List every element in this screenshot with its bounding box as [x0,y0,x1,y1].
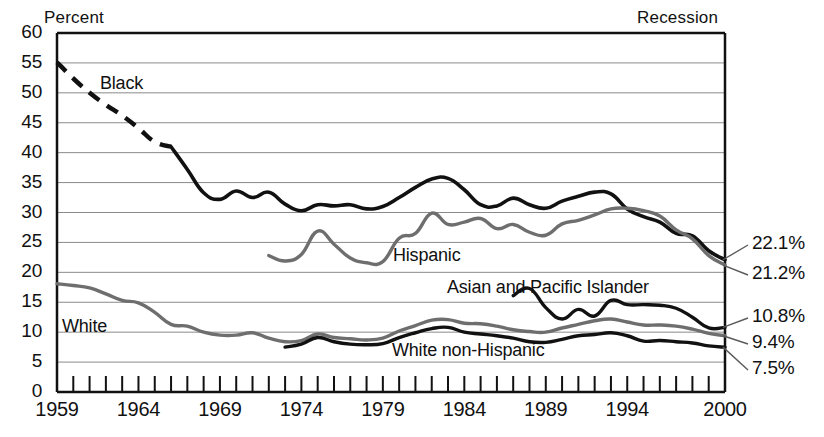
series-label-white-non-hispanic: White non-Hispanic [392,340,544,361]
y-tick-label: 35 [8,171,42,193]
series-label-black: Black [100,73,143,94]
end-label-asian-and-pacific-islander: 10.8% [752,305,805,327]
y-tick-label: 15 [8,290,42,312]
end-label-hispanic: 21.2% [752,262,805,284]
y-tick-label: 5 [8,350,42,372]
y-tick-label: 45 [8,111,42,133]
y-tick-label: 40 [8,141,42,163]
x-tick-label: 2000 [685,398,765,421]
end-label-black: 22.1% [752,232,805,254]
x-tick-label: 1959 [17,398,97,421]
end-label-white-non-hispanic: 7.5% [752,357,795,379]
y-tick-label: 25 [8,230,42,252]
series-label-asian-and-pacific-islander: Asian and Pacific Islander [447,277,649,298]
series-label-hispanic: Hispanic [393,245,460,266]
end-label-leader-lines [723,245,748,370]
end-label-white: 9.4% [752,331,795,353]
y-tick-label: 60 [8,21,42,43]
x-tick-label: 1969 [180,398,260,421]
x-tick-label: 1974 [261,398,341,421]
series-lines [57,62,725,347]
x-tick-label: 1989 [506,398,586,421]
poverty-rate-chart: Percent Recession 6055504540353025201510… [0,0,824,437]
x-axis-ticks [57,376,725,392]
y-tick-label: 10 [8,320,42,342]
y-tick-label: 30 [8,201,42,223]
y-tick-label: 55 [8,51,42,73]
series-label-white: White [62,316,107,337]
y-tick-label: 50 [8,81,42,103]
x-tick-label: 1964 [98,398,178,421]
x-tick-label: 1994 [587,398,667,421]
x-tick-label: 1984 [424,398,504,421]
y-tick-label: 20 [8,260,42,282]
x-tick-label: 1979 [343,398,423,421]
chart-canvas [0,0,824,437]
